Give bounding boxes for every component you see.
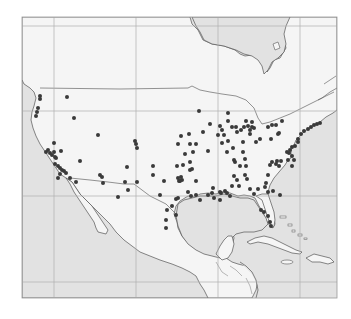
- city-marker: [54, 156, 58, 160]
- city-marker: [232, 174, 236, 178]
- city-marker: [56, 176, 60, 180]
- city-marker: [278, 193, 282, 197]
- city-marker: [318, 121, 322, 125]
- city-marker: [65, 95, 69, 99]
- city-marker: [290, 164, 294, 168]
- city-marker: [245, 177, 249, 181]
- city-marker: [271, 189, 275, 193]
- city-marker: [179, 134, 183, 138]
- city-marker: [158, 193, 162, 197]
- city-marker: [230, 125, 234, 129]
- city-marker: [100, 175, 104, 179]
- city-marker: [231, 146, 235, 150]
- city-marker: [211, 186, 215, 190]
- city-marker: [252, 126, 256, 130]
- city-marker: [180, 178, 184, 182]
- city-marker: [241, 140, 245, 144]
- city-marker: [125, 165, 129, 169]
- city-marker: [64, 171, 68, 175]
- city-marker: [59, 149, 63, 153]
- map-content: [22, 17, 337, 298]
- city-marker: [72, 116, 76, 120]
- city-marker: [242, 125, 246, 129]
- city-marker: [262, 210, 266, 214]
- city-marker: [165, 208, 169, 212]
- city-marker: [302, 129, 306, 133]
- city-marker: [266, 214, 270, 218]
- city-marker: [243, 173, 247, 177]
- city-marker: [252, 192, 256, 196]
- city-marker: [170, 204, 174, 208]
- city-marker: [164, 218, 168, 222]
- city-marker: [210, 191, 214, 195]
- city-marker: [235, 178, 239, 182]
- city-marker: [212, 196, 216, 200]
- city-marker: [162, 179, 166, 183]
- city-marker: [246, 124, 250, 128]
- city-marker: [174, 213, 178, 217]
- city-marker: [201, 130, 205, 134]
- city-marker: [290, 154, 294, 158]
- city-marker: [274, 123, 278, 127]
- city-marker: [225, 150, 229, 154]
- city-marker: [151, 164, 155, 168]
- city-marker: [68, 176, 72, 180]
- city-marker: [258, 137, 262, 141]
- city-marker: [191, 150, 195, 154]
- city-marker: [270, 123, 274, 127]
- city-marker: [218, 190, 222, 194]
- city-marker: [280, 119, 284, 123]
- city-marker: [151, 173, 155, 177]
- city-marker: [222, 133, 226, 137]
- city-marker: [188, 160, 192, 164]
- city-marker: [269, 137, 273, 141]
- city-marker: [135, 146, 139, 150]
- city-marker: [197, 109, 201, 113]
- city-marker: [181, 163, 185, 167]
- city-marker: [232, 158, 236, 162]
- city-marker: [176, 196, 180, 200]
- city-marker: [188, 142, 192, 146]
- city-marker: [268, 220, 272, 224]
- city-marker: [194, 179, 198, 183]
- city-marker: [241, 150, 245, 154]
- city-marker: [250, 120, 254, 124]
- city-marker: [239, 128, 243, 132]
- city-marker: [123, 180, 127, 184]
- city-marker: [183, 152, 187, 156]
- city-marker: [164, 226, 168, 230]
- city-marker: [206, 193, 210, 197]
- city-marker: [275, 159, 279, 163]
- city-marker: [186, 190, 190, 194]
- city-marker: [101, 181, 105, 185]
- city-marker: [134, 142, 138, 146]
- city-marker: [218, 124, 222, 128]
- city-marker: [176, 142, 180, 146]
- city-marker: [187, 132, 191, 136]
- city-marker: [238, 164, 242, 168]
- city-marker: [52, 141, 56, 145]
- city-marker: [266, 125, 270, 129]
- city-marker: [220, 128, 224, 132]
- city-marker: [243, 157, 247, 161]
- city-marker: [244, 119, 248, 123]
- city-marker: [116, 195, 120, 199]
- city-marker: [237, 184, 241, 188]
- city-marker: [218, 198, 222, 202]
- city-marker: [226, 111, 230, 115]
- city-marker: [299, 132, 303, 136]
- city-marker: [269, 224, 273, 228]
- city-marker: [277, 164, 281, 168]
- city-marker: [230, 184, 234, 188]
- city-marker: [96, 133, 100, 137]
- city-marker: [58, 172, 62, 176]
- city-marker: [248, 132, 252, 136]
- city-marker: [188, 168, 192, 172]
- city-marker: [266, 190, 270, 194]
- city-marker: [74, 180, 78, 184]
- city-marker: [35, 110, 39, 114]
- city-marker: [198, 198, 202, 202]
- city-marker: [38, 97, 42, 101]
- city-marker: [34, 114, 38, 118]
- city-marker: [279, 159, 283, 163]
